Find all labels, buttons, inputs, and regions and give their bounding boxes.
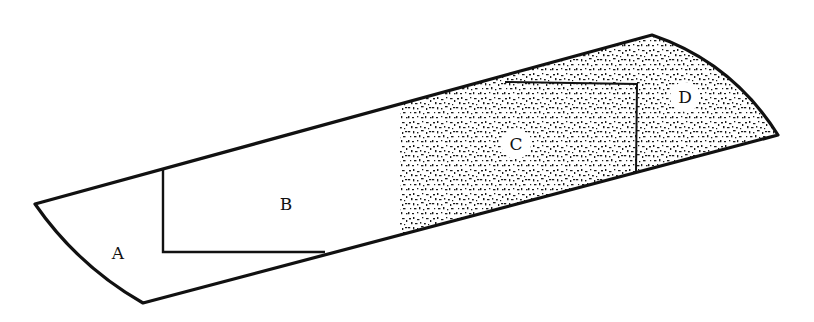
region-b-boundary [163,169,325,252]
label-b: B [280,194,293,214]
label-c: C [501,129,531,159]
strip-diagram: A B C D [0,0,814,322]
label-a: A [111,243,125,263]
svg-text:C: C [509,134,522,154]
svg-text:B: B [280,194,293,214]
svg-text:D: D [678,87,692,107]
label-d: D [670,82,700,112]
svg-text:A: A [111,243,125,263]
